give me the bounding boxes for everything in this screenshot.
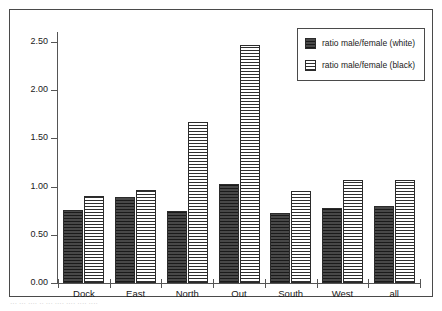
legend-item-series-0: ratio male/female (white)	[305, 36, 415, 50]
bar-out-series-0	[219, 184, 239, 283]
bar-west-series-0	[322, 208, 342, 283]
legend-label-series-0: ratio male/female (white)	[322, 39, 415, 48]
legend-item-series-1: ratio male/female (black)	[305, 58, 415, 72]
bar-south-series-0	[270, 213, 290, 283]
bar-dock-series-1	[84, 196, 104, 283]
chart-figure: 0.000.501.001.502.002.50 DockEastNorthOu…	[0, 0, 442, 311]
x-axis-label-north: North	[161, 289, 213, 299]
bar-all-series-1	[395, 180, 415, 283]
bar-all-series-0	[374, 206, 394, 283]
x-axis-label-out: Out	[213, 289, 265, 299]
x-axis-separator	[58, 279, 59, 288]
x-axis-separator	[161, 279, 162, 288]
x-axis-separator	[213, 279, 214, 288]
x-axis-separator	[368, 279, 369, 288]
bar-east-series-1	[136, 190, 156, 283]
legend-label-series-1: ratio male/female (black)	[322, 61, 415, 70]
x-axis-separator	[317, 279, 318, 288]
x-axis-label-west: West	[317, 289, 369, 299]
bar-dock-series-0	[63, 210, 83, 283]
x-axis-separator	[265, 279, 266, 288]
legend-swatch-icon-series-0	[305, 38, 316, 49]
bar-north-series-0	[167, 211, 187, 283]
caption-fragment: ··· ··· ···· ·· ··· ···· ···· ···· ····	[10, 300, 260, 308]
bar-north-series-1	[188, 122, 208, 283]
x-axis-label-east: East	[110, 289, 162, 299]
bar-south-series-1	[291, 191, 311, 283]
legend-swatch-icon-series-1	[305, 60, 316, 71]
bar-out-series-1	[240, 45, 260, 283]
bar-east-series-0	[115, 197, 135, 283]
chart-frame: 0.000.501.001.502.002.50 DockEastNorthOu…	[9, 9, 433, 297]
x-axis-label-south: South	[265, 289, 317, 299]
x-axis-label-dock: Dock	[58, 289, 110, 299]
x-axis-separator	[420, 279, 421, 288]
bar-west-series-1	[343, 180, 363, 283]
chart-legend: ratio male/female (white) ratio male/fem…	[297, 28, 425, 81]
x-axis-separator	[110, 279, 111, 288]
x-axis-label-all: all	[368, 289, 420, 299]
